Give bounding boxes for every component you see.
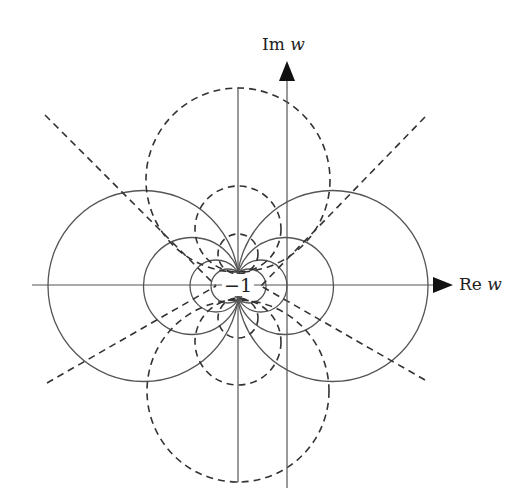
real-axis-label-text: Re xyxy=(459,274,482,294)
dashed-ray xyxy=(261,286,425,380)
dashed-ray xyxy=(261,117,425,286)
imaginary-axis-label-text: Im xyxy=(262,34,285,54)
imaginary-axis-label: Im w xyxy=(262,34,305,54)
imaginary-axis-variable: w xyxy=(290,34,305,54)
real-axis-arrowhead-icon xyxy=(433,277,453,293)
dashed-ray-family xyxy=(45,115,425,383)
imaginary-axis-arrowhead-icon xyxy=(279,61,295,81)
conformal-map-diagram xyxy=(0,0,532,500)
minus-one-point-label: −1 xyxy=(222,274,254,296)
real-axis-variable: w xyxy=(487,274,502,294)
real-axis-label: Re w xyxy=(459,274,502,294)
dashed-ray xyxy=(45,115,216,286)
